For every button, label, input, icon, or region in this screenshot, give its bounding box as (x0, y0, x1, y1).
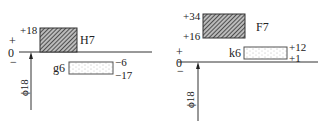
hole-upper-deviation: +18 (20, 24, 38, 36)
minus-label: − (10, 55, 17, 69)
diagram-h7-g6: 0 + − ϕ18 +18 H7 g6 −6 −17 (8, 24, 152, 110)
shaft-zone-g6 (69, 62, 113, 74)
shaft-lower-deviation: −17 (115, 69, 133, 81)
hole-lower-deviation: +16 (183, 30, 201, 42)
arrow-up-icon (29, 52, 33, 59)
nominal-size-label: ϕ18 (18, 79, 30, 96)
hole-label: H7 (80, 33, 95, 47)
nominal-size-label: ϕ18 (184, 91, 196, 108)
shaft-label: k6 (229, 46, 241, 60)
shaft-lower-deviation: +1 (289, 52, 301, 64)
shaft-upper-deviation: −6 (115, 56, 127, 68)
hole-zone-h7 (40, 28, 77, 52)
plus-label: + (9, 34, 16, 48)
plus-label: + (176, 45, 183, 59)
minus-label: − (177, 64, 184, 78)
hole-upper-deviation: +34 (183, 10, 201, 22)
shaft-zone-k6 (244, 47, 287, 59)
hole-label: F7 (256, 20, 269, 34)
tolerance-zone-diagrams: 0 + − ϕ18 +18 H7 g6 −6 −17 0 + − ϕ18 +34… (0, 0, 327, 131)
shaft-label: g6 (53, 61, 65, 75)
diagram-f7-k6: 0 + − ϕ18 +34 +16 F7 k6 +12 +1 (176, 10, 318, 121)
hole-zone-f7 (203, 14, 245, 38)
arrow-up-icon (196, 62, 200, 69)
